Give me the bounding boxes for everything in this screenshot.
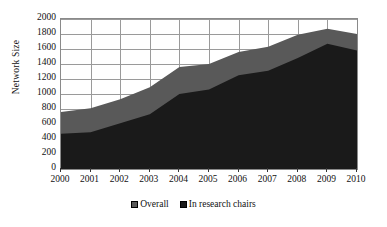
y-axis-tick-label: 0	[20, 163, 56, 173]
x-axis-tick-mark	[356, 168, 357, 172]
x-axis-tick-mark	[297, 168, 298, 172]
y-axis-tick-label: 1600	[20, 43, 56, 53]
x-axis-tick-mark	[326, 168, 327, 172]
plot-area	[60, 18, 358, 170]
chart-legend: Overall In research chairs	[0, 199, 387, 210]
x-axis-tick-mark	[267, 168, 268, 172]
x-axis-tick-marks	[60, 168, 356, 173]
y-axis-tick-label: 1400	[20, 58, 56, 68]
x-axis-tick-mark	[208, 168, 209, 172]
y-axis-tick-label: 1000	[20, 88, 56, 98]
legend-swatch-overall	[131, 201, 138, 208]
x-axis-tick-mark	[60, 168, 61, 172]
x-axis-tick-labels: 2000200120022003200420052006200720082009…	[60, 174, 356, 188]
y-axis-tick-label: 400	[20, 133, 56, 143]
x-axis-tick-mark	[149, 168, 150, 172]
x-axis-tick-label: 2010	[334, 174, 378, 185]
area-series-group	[61, 19, 357, 169]
legend-item-overall: Overall	[131, 199, 169, 210]
legend-label-overall: Overall	[140, 199, 169, 210]
legend-swatch-in-research-chairs	[180, 201, 187, 208]
y-axis-tick-labels: 0200400600800100012001400160018002000	[20, 18, 56, 168]
y-axis-tick-label: 800	[20, 103, 56, 113]
y-axis-tick-label: 1800	[20, 28, 56, 38]
x-axis-tick-mark	[90, 168, 91, 172]
y-axis-tick-label: 200	[20, 148, 56, 158]
y-axis-tick-label: 600	[20, 118, 56, 128]
y-axis-tick-label: 2000	[20, 13, 56, 23]
y-axis-tick-label: 1200	[20, 73, 56, 83]
x-axis-tick-mark	[119, 168, 120, 172]
chart-figure: Network Size 020040060080010001200140016…	[0, 0, 387, 227]
legend-item-in-research-chairs: In research chairs	[180, 199, 256, 210]
x-axis-tick-mark	[238, 168, 239, 172]
legend-label-in-research-chairs: In research chairs	[189, 199, 256, 210]
x-axis-tick-mark	[178, 168, 179, 172]
